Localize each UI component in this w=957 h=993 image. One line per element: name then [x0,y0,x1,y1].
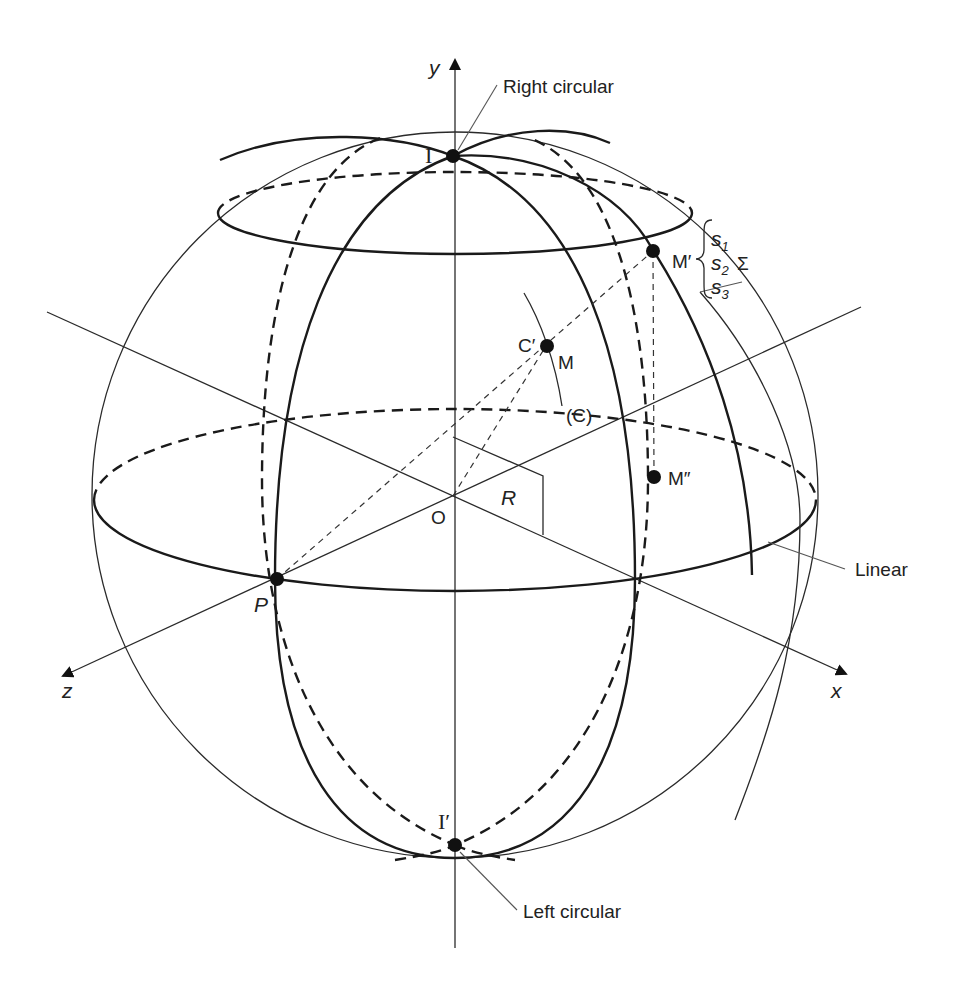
label-s1: s1 [711,227,729,254]
label-M-double-prime: M″ [668,468,691,489]
label-M-prime: M′ [672,251,692,272]
stokes-brace [696,220,712,298]
radius-bracket [453,437,543,535]
label-left-circular: Left circular [523,901,622,922]
label-M: M [558,352,574,373]
label-sigma: Σ [737,253,749,274]
poincare-sphere-diagram: y x z I I′ P O M′ M C′ M″ Right circular… [0,0,957,993]
label-z-axis: z [61,679,73,702]
line-M-prime-to-M-double-prime [653,251,654,476]
label-C-prime: C′ [518,335,536,356]
label-P: P [254,593,268,616]
leader-left-circular [460,852,517,910]
point-I-prime [448,838,462,852]
point-I [446,149,460,163]
label-radius: R [501,486,516,509]
arc-top-right [453,131,610,156]
label-s3: s3 [711,275,730,302]
label-I-prime: I′ [438,809,450,834]
point-M-double-prime [647,470,661,484]
label-curve-C: (C) [566,405,592,426]
meridian-through-M-prime [453,155,752,575]
label-I: I [425,143,432,168]
sigma-meridian [700,292,800,820]
label-linear: Linear [855,559,908,580]
arc-top-left [220,137,453,160]
point-C-prime [540,339,554,353]
label-O: O [431,507,446,528]
label-x-axis: x [830,679,843,702]
leader-linear [768,542,845,569]
point-P [270,572,284,586]
z-axis [63,307,861,676]
label-right-circular: Right circular [503,76,615,97]
point-M-prime [646,244,660,258]
x-axis [47,312,846,674]
label-y-axis: y [427,56,441,79]
line-P-to-M-prime [277,251,653,579]
